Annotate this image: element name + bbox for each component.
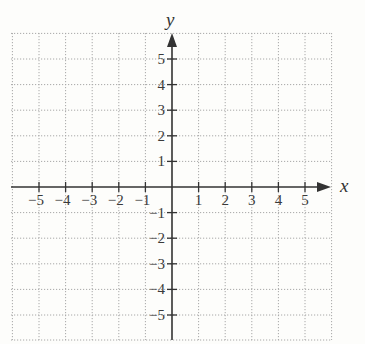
- x-tick-label: 2: [221, 192, 229, 208]
- x-tick-label: −3: [81, 192, 97, 208]
- y-tick-label: 5: [158, 51, 166, 67]
- y-tick-label: 2: [158, 128, 166, 144]
- x-tick-label: 4: [275, 192, 283, 208]
- y-tick-label: 1: [158, 153, 166, 169]
- y-axis-label: y: [164, 9, 175, 30]
- coordinate-plane: −5−4−3−2−11234554321−1−2−3−4−5 x y: [0, 0, 365, 344]
- y-tick-label: −5: [149, 307, 165, 323]
- x-tick-label: 1: [195, 192, 203, 208]
- x-tick-label: −1: [134, 192, 150, 208]
- x-tick-label: −2: [108, 192, 124, 208]
- x-tick-label: −4: [55, 192, 71, 208]
- x-tick-label: 3: [248, 192, 256, 208]
- y-tick-label: −1: [149, 205, 165, 221]
- y-tick-label: −4: [149, 281, 165, 297]
- y-tick-label: −3: [149, 256, 165, 272]
- x-tick-label: 5: [301, 192, 309, 208]
- y-tick-label: −2: [149, 230, 165, 246]
- x-tick-label: −5: [28, 192, 44, 208]
- x-axis-arrow-icon: [317, 182, 331, 192]
- y-tick-label: 3: [158, 102, 166, 118]
- x-axis-label: x: [339, 175, 349, 196]
- y-axis-arrow-icon: [167, 33, 177, 47]
- y-tick-label: 4: [158, 77, 166, 93]
- axes: [11, 33, 331, 340]
